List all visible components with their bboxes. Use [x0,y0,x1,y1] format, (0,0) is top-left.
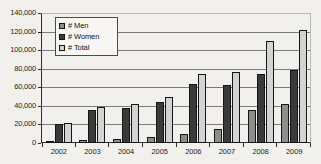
bar-women [55,124,63,143]
legend-label: # Total [68,43,89,52]
bar-total [131,104,139,143]
legend-swatch-total [59,45,65,51]
bar-men [214,129,222,143]
bar-group [143,13,177,143]
bar-total [198,74,206,143]
x-tick-label: 2003 [76,147,110,159]
legend-swatch-men [59,23,65,29]
legend-swatch-women [59,34,65,40]
x-tick-label: 2002 [42,147,76,159]
bar-women [189,84,197,143]
x-tick-label: 2006 [177,147,211,159]
bar-total [266,41,274,143]
bar-women [223,85,231,143]
legend-item: # Total [59,42,114,53]
y-tick-label: 0 [0,138,36,147]
bar-group [244,13,278,143]
legend-label: # Men [68,21,88,30]
bar-women [88,110,96,143]
y-tick-label: 60,000 [0,82,36,91]
x-axis-labels: 20022003200420052006200720082009 [42,147,311,159]
bar-total [97,107,105,143]
y-tick-mark [38,143,41,144]
bar-total [165,97,173,143]
x-tick-label: 2009 [277,147,311,159]
y-tick-label: 100,000 [0,45,36,54]
legend-item: # Women [59,31,114,42]
y-tick-label: 40,000 [0,101,36,110]
y-tick-label: 120,000 [0,27,36,36]
bar-men [281,104,289,143]
y-tick-label: 140,000 [0,8,36,17]
x-tick-label: 2007 [210,147,244,159]
bar-women [257,74,265,143]
bar-group [277,13,311,143]
bar-men [180,134,188,143]
legend-label: # Women [68,32,99,41]
bar-group [210,13,244,143]
bar-group [177,13,211,143]
chart-legend: # Men# Women# Total [55,17,118,56]
x-tick-label: 2008 [244,147,278,159]
y-tick-label: 20,000 [0,119,36,128]
bar-women [156,102,164,143]
bar-women [122,108,130,143]
bar-total [64,123,72,143]
bar-chart: 140,000120,000100,00080,00060,00040,0002… [0,0,321,164]
bar-total [299,30,307,143]
bar-total [232,72,240,144]
x-tick-label: 2005 [143,147,177,159]
legend-item: # Men [59,20,114,31]
x-tick-label: 2004 [109,147,143,159]
bar-women [290,70,298,143]
bar-men [248,110,256,143]
y-tick-label: 80,000 [0,64,36,73]
